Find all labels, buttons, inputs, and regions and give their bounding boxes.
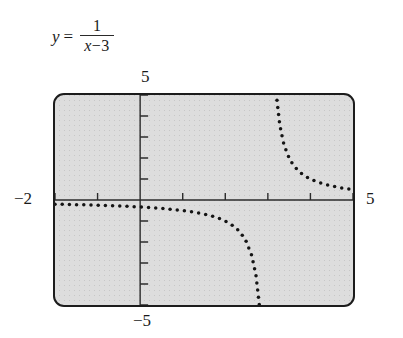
equation-expression: y = 1 x−3 — [52, 18, 114, 54]
equation-lhs: y — [52, 28, 60, 45]
graph-plot — [55, 95, 353, 305]
fraction-numerator: 1 — [87, 18, 107, 35]
fraction-denominator: x−3 — [80, 36, 114, 54]
curve-dot-branch-0 — [55, 202, 57, 206]
curve-dot-branch-0 — [255, 281, 259, 285]
curve-dot-branch-0 — [253, 267, 257, 271]
x-axis-max-label: 5 — [366, 190, 375, 207]
curve-dot-branch-0 — [104, 204, 108, 208]
curve-dot-branch-0 — [111, 204, 115, 208]
curve-dot-branch-0 — [197, 211, 201, 215]
curve-dot-branch-1 — [312, 179, 316, 183]
curve-dot-branch-0 — [247, 246, 251, 250]
curve-dot-branch-0 — [82, 203, 86, 207]
curve-dot-branch-0 — [140, 205, 144, 209]
graphing-calculator-screen — [53, 93, 355, 307]
curve-dot-branch-1 — [282, 141, 286, 145]
denominator-number: 3 — [101, 37, 110, 54]
curve-dot-branch-1 — [280, 134, 284, 138]
curve-dot-branch-1 — [276, 106, 280, 110]
curve-dot-branch-0 — [168, 207, 172, 211]
equation-fraction: 1 x−3 — [80, 18, 114, 54]
curve-dot-branch-0 — [147, 206, 151, 210]
curve-dot-branch-0 — [250, 253, 254, 257]
curve-dot-branch-0 — [190, 210, 194, 214]
curve-dot-branch-0 — [183, 209, 187, 213]
curve-dot-branch-0 — [257, 296, 261, 300]
curve-dot-branch-1 — [284, 148, 288, 152]
curve-dot-branch-0 — [96, 204, 100, 208]
curve-dot-branch-1 — [277, 113, 281, 117]
curve-dot-branch-0 — [211, 214, 215, 218]
curve-dot-branch-1 — [340, 186, 344, 190]
curve-dot-branch-0 — [244, 240, 248, 244]
curve-dot-branch-0 — [68, 203, 72, 207]
y-axis-min-label: −5 — [133, 312, 151, 329]
curve-dot-branch-0 — [154, 206, 158, 210]
x-axis-min-label: −2 — [14, 190, 32, 207]
curve-dot-branch-0 — [60, 203, 64, 207]
curve-dot-branch-0 — [256, 288, 260, 292]
curve-dot-branch-1 — [278, 120, 282, 124]
curve-dot-branch-0 — [132, 205, 136, 209]
curve-dot-branch-0 — [224, 220, 228, 224]
curve-dot-branch-0 — [230, 223, 234, 227]
curve-dot-branch-0 — [204, 213, 208, 217]
denominator-operator: − — [92, 37, 102, 54]
curve-dot-branch-0 — [161, 207, 165, 211]
curve-dot-branch-0 — [236, 228, 240, 232]
curve-dot-branch-0 — [251, 260, 255, 264]
curve-dot-branch-1 — [279, 127, 283, 131]
curve-dot-branch-1 — [347, 187, 351, 191]
denominator-variable: x — [84, 37, 92, 54]
curve-dot-branch-0 — [175, 208, 179, 212]
curve-dot-branch-0 — [254, 274, 258, 278]
curve-dot-branch-0 — [125, 205, 129, 209]
curve-dot-branch-0 — [241, 234, 245, 238]
curve-dot-branch-1 — [333, 185, 337, 189]
curve-dot-branch-1 — [287, 155, 291, 159]
curve-dot-branch-1 — [290, 161, 294, 165]
curve-dot-branch-1 — [275, 99, 279, 103]
curve-dot-branch-1 — [326, 183, 330, 187]
curve-dot-branch-1 — [300, 172, 304, 176]
curve-dot-branch-0 — [258, 303, 262, 305]
y-axis-max-label: 5 — [141, 68, 150, 85]
curve-dot-branch-1 — [319, 181, 323, 185]
curve-dot-branch-1 — [295, 167, 299, 171]
curve-dot-branch-0 — [118, 204, 122, 208]
curve-dot-branch-0 — [75, 203, 79, 207]
curve-dot-branch-0 — [218, 217, 222, 221]
equation-equals-sign: = — [64, 28, 74, 45]
curve-dot-branch-1 — [306, 176, 310, 180]
curve-dot-branch-0 — [89, 203, 93, 207]
